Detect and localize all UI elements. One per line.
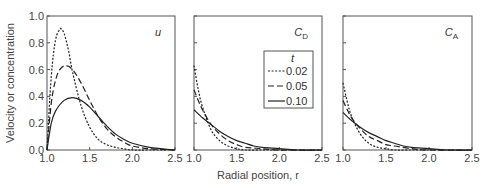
- x-tick-label: 1.0: [186, 152, 201, 164]
- legend-label: 0.10: [286, 95, 307, 107]
- x-axis-title: Radial position, r: [217, 169, 299, 181]
- chart: 1.01.52.02.50.00.20.40.60.81.0u1.01.52.0…: [0, 0, 496, 188]
- y-axis-title: Velocity or concentration: [4, 23, 16, 143]
- series-line-t-0.05: [343, 100, 472, 150]
- panel-label: CA: [445, 26, 459, 41]
- panel-label: u: [155, 26, 161, 38]
- panel-1: 1.01.52.02.50.00.20.40.60.81.0u: [29, 10, 183, 164]
- legend: t0.020.050.10: [264, 51, 313, 108]
- y-tick-label: 0.4: [29, 90, 44, 102]
- series-line-t-0.05: [47, 66, 175, 150]
- y-tick-label: 0.2: [29, 117, 44, 129]
- x-tick-label: 2.0: [421, 152, 436, 164]
- series-line-t-0.02: [343, 83, 472, 150]
- legend-label: 0.02: [286, 65, 307, 77]
- series-line-t-0.10: [47, 98, 175, 150]
- series-line-t-0.10: [194, 110, 322, 150]
- x-tick-label: 2.5: [167, 152, 182, 164]
- panel-3: 1.01.52.02.5CA: [335, 16, 479, 164]
- series-line-t-0.02: [47, 28, 175, 150]
- y-tick-label: 0.8: [29, 37, 44, 49]
- x-tick-label: 1.5: [229, 152, 244, 164]
- panel-label: CD: [294, 26, 308, 41]
- x-tick-label: 2.5: [464, 152, 479, 164]
- x-tick-label: 1.5: [82, 152, 97, 164]
- x-tick-label: 1.0: [335, 152, 350, 164]
- x-tick-label: 2.0: [272, 152, 287, 164]
- y-tick-label: 1.0: [29, 10, 44, 22]
- legend-label: 0.05: [286, 80, 307, 92]
- y-tick-label: 0.0: [29, 144, 44, 156]
- y-tick-label: 0.6: [29, 64, 44, 76]
- x-tick-label: 1.5: [378, 152, 393, 164]
- x-tick-label: 2.5: [314, 152, 329, 164]
- x-tick-label: 2.0: [125, 152, 140, 164]
